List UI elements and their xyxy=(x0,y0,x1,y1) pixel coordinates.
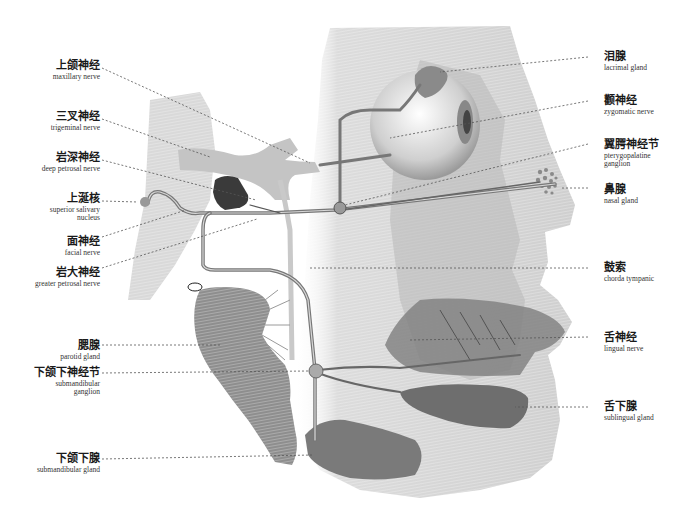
label-trigeminal-nerve: 三叉神经 trigeminal nerve xyxy=(51,111,100,131)
parotid-gland-shape xyxy=(194,287,297,465)
label-chorda-tympani: 鼓索 chorda tympanic xyxy=(604,262,654,282)
label-zygomatic-nerve: 颧神经 zygomatic nerve xyxy=(604,95,654,115)
parasympathetic-facial-nerve-diagram: 上颌神经 maxillary nerve 三叉神经 trigeminal ner… xyxy=(0,0,694,513)
label-maxillary-nerve: 上颌神经 maxillary nerve xyxy=(53,60,100,80)
label-superior-salivary-nucleus: 上涎核 superior salivary nucleus xyxy=(50,193,100,222)
label-sublingual-gland: 舌下腺 sublingual gland xyxy=(604,401,654,421)
label-lacrimal-gland: 泪腺 lacrimal gland xyxy=(604,51,647,71)
label-lingual-nerve: 舌神经 lingual nerve xyxy=(604,332,643,352)
label-greater-petrosal-nerve: 岩大神经 greater petrosal nerve xyxy=(35,267,100,287)
anatomy-illustration xyxy=(0,0,694,513)
geniculate-loop xyxy=(188,283,202,291)
label-submandibular-ganglion: 下颌下神经节 submandibular ganglion xyxy=(34,367,100,396)
label-parotid-gland: 腮腺 parotid gland xyxy=(60,340,100,360)
label-facial-nerve: 面神经 facial nerve xyxy=(65,236,100,256)
superior-salivary-nucleus-shape xyxy=(140,197,150,207)
label-deep-petrosal-nerve: 岩深神经 deep petrosal nerve xyxy=(42,152,100,172)
label-pterygopalatine-ganglion: 翼腭神经节 pterygopalatine ganglion xyxy=(604,139,659,168)
carotid-plexus xyxy=(213,176,248,210)
submandibular-ganglion-shape xyxy=(309,364,323,378)
label-nasal-gland: 鼻腺 nasal gland xyxy=(604,184,638,204)
label-submandibular-gland: 下颌下腺 submandibular gland xyxy=(37,453,100,473)
pterygopalatine-ganglion-shape xyxy=(334,202,346,214)
